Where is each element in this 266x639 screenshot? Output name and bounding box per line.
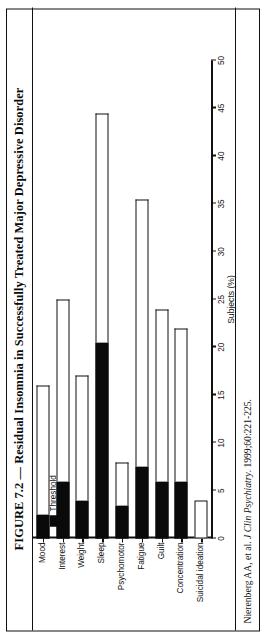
category-label: Interest bbox=[59, 542, 67, 569]
bar-segment-threshold bbox=[96, 342, 109, 538]
value-tick bbox=[211, 250, 216, 251]
figure-title-band: FIGURE 7.2 — Residual Insomnia in Succes… bbox=[7, 7, 33, 630]
value-tick bbox=[211, 154, 216, 155]
category-tick bbox=[201, 538, 202, 542]
value-tick-label: 40 bbox=[217, 151, 226, 160]
rotated-figure-stage: FIGURE 7.2 — Residual Insomnia in Succes… bbox=[0, 0, 266, 639]
value-tick-label: 10 bbox=[217, 438, 226, 447]
value-tick bbox=[211, 202, 216, 203]
figure-title: FIGURE 7.2 — Residual Insomnia in Succes… bbox=[12, 87, 27, 550]
category-label: Guilt bbox=[157, 542, 165, 559]
bar-segment-subthreshold bbox=[76, 376, 89, 500]
category-tick bbox=[82, 538, 83, 542]
category-tick bbox=[63, 538, 64, 542]
value-tick-label: 25 bbox=[217, 294, 226, 303]
value-axis: Subjects (%) 05101520253035404550 bbox=[211, 60, 237, 538]
category-label: Mood bbox=[39, 542, 47, 562]
category-label: Fatigue bbox=[138, 542, 146, 569]
bar-row bbox=[135, 199, 148, 538]
category-label: Psychomotor bbox=[118, 542, 126, 590]
value-tick-label: 15 bbox=[217, 390, 226, 399]
bar-segment-threshold bbox=[76, 500, 89, 538]
figure-citation: Nierenberg AA, et al. J Clin Psychiatry.… bbox=[242, 399, 253, 630]
category-label: Sleep bbox=[98, 542, 106, 563]
citation-band: Nierenberg AA, et al. J Clin Psychiatry.… bbox=[235, 7, 259, 630]
bar-segment-subthreshold bbox=[36, 385, 49, 514]
value-tick bbox=[211, 489, 216, 490]
category-axis-labels: MoodInterestWeightSleepPsychomotorFatigu… bbox=[33, 538, 211, 630]
bar-segment-threshold bbox=[155, 481, 168, 538]
bar-row bbox=[195, 500, 208, 538]
bar-segment-threshold bbox=[36, 514, 49, 538]
value-tick bbox=[211, 59, 216, 60]
category-label: Concentration bbox=[177, 542, 185, 593]
value-tick-label: 50 bbox=[217, 55, 226, 64]
category-tick bbox=[181, 538, 182, 542]
value-tick-label: 5 bbox=[217, 488, 226, 493]
bar-row bbox=[116, 462, 129, 538]
category-label: Weight bbox=[78, 542, 86, 567]
bar-segment-subthreshold bbox=[96, 113, 109, 342]
bar-segment-subthreshold bbox=[135, 199, 148, 467]
category-tick bbox=[43, 538, 44, 542]
value-tick-label: 0 bbox=[217, 536, 226, 541]
bar-segment-threshold bbox=[116, 505, 129, 538]
bar-row bbox=[96, 113, 109, 538]
category-tick bbox=[142, 538, 143, 542]
bar-segment-subthreshold bbox=[56, 299, 69, 481]
bar-row bbox=[76, 376, 89, 539]
category-tick bbox=[102, 538, 103, 542]
bar-group bbox=[33, 60, 211, 538]
bar-segment-threshold bbox=[135, 466, 148, 538]
plot-area: Subthreshold Threshold n=108 MoodInteres… bbox=[33, 7, 237, 630]
figure-box: FIGURE 7.2 — Residual Insomnia in Succes… bbox=[6, 8, 260, 631]
bar-segment-threshold bbox=[56, 481, 69, 538]
figure-page: FIGURE 7.2 — Residual Insomnia in Succes… bbox=[0, 0, 266, 639]
category-tick bbox=[122, 538, 123, 542]
category-tick bbox=[162, 538, 163, 542]
citation-details: . 1999;60:221-225. bbox=[242, 399, 253, 472]
bar-segment-subthreshold bbox=[195, 500, 208, 538]
value-tick-label: 45 bbox=[217, 103, 226, 112]
citation-authors: Nierenberg AA, et al. bbox=[242, 538, 253, 623]
value-tick-label: 35 bbox=[217, 199, 226, 208]
bar-row bbox=[56, 299, 69, 538]
value-tick-label: 30 bbox=[217, 247, 226, 256]
bar-segment-threshold bbox=[175, 481, 188, 538]
category-label: Suicidal ideation bbox=[197, 542, 205, 602]
value-tick bbox=[211, 537, 216, 538]
value-tick bbox=[211, 441, 216, 442]
value-tick bbox=[211, 106, 216, 107]
value-tick-label: 20 bbox=[217, 342, 226, 351]
bar-row bbox=[175, 328, 188, 538]
bar-row bbox=[36, 385, 49, 538]
bar-segment-subthreshold bbox=[175, 328, 188, 481]
citation-journal: J Clin Psychiatry bbox=[242, 472, 253, 539]
bar-segment-subthreshold bbox=[155, 309, 168, 481]
bar-row bbox=[155, 309, 168, 538]
bar-segment-subthreshold bbox=[116, 462, 129, 505]
value-tick bbox=[211, 393, 216, 394]
value-tick bbox=[211, 298, 216, 299]
value-tick bbox=[211, 345, 216, 346]
